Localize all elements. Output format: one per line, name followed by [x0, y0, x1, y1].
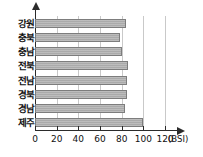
category-label: 충북 — [18, 32, 35, 43]
x-tick-label: 80 — [116, 134, 127, 145]
x-tick-mark — [57, 126, 58, 131]
bar — [35, 104, 125, 113]
x-tick-label: 40 — [73, 134, 84, 145]
x-tick-mark — [35, 126, 36, 131]
gridline-100 — [143, 16, 144, 130]
category-label: 경남 — [18, 103, 35, 114]
category-label: 경북 — [18, 89, 35, 100]
x-tick-label: 60 — [94, 134, 105, 145]
category-label: 전북 — [18, 60, 35, 71]
y-axis-arrowhead — [32, 2, 40, 10]
x-axis-unit-label: (BSI) — [168, 134, 188, 145]
gridline-120 — [165, 16, 166, 130]
x-tick-mark — [78, 126, 79, 131]
category-label: 충남 — [18, 46, 35, 57]
x-tick-label: 100 — [135, 134, 152, 145]
category-label: 제주 — [18, 117, 35, 128]
x-tick-mark — [165, 126, 166, 131]
bar — [35, 118, 143, 127]
category-label: 강원 — [18, 18, 35, 29]
bar — [35, 90, 127, 99]
x-tick-label: 0 — [32, 134, 38, 145]
plot-area — [35, 16, 165, 130]
bsi-horizontal-bar-chart: 020406080100120 강원충북충남전북전남경북경남제주 (BSI) — [0, 0, 203, 157]
bar — [35, 61, 128, 70]
bar — [35, 47, 122, 56]
x-tick-mark — [100, 126, 101, 131]
bar — [35, 33, 120, 42]
x-tick-mark — [122, 126, 123, 131]
x-tick-label: 20 — [51, 134, 62, 145]
x-tick-mark — [143, 126, 144, 131]
bar — [35, 19, 126, 28]
category-label: 전남 — [18, 75, 35, 86]
bar — [35, 76, 127, 85]
